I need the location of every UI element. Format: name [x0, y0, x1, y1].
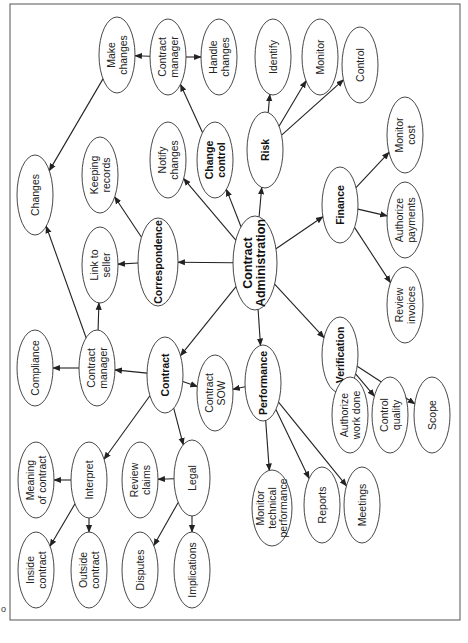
- edge-correspondence-to-link_seller: [118, 263, 138, 264]
- node-compliance: Compliance: [17, 330, 53, 406]
- node-control: Control: [342, 27, 378, 103]
- node-link-seller: Link toseller: [82, 227, 118, 303]
- edge-contract_admin-to-change_control: [226, 189, 241, 226]
- node-label: Legal: [186, 465, 198, 491]
- node-label: Monitor: [314, 39, 326, 75]
- node-label: Contractmanager: [85, 347, 109, 389]
- node-contract-admin: ContractAdministration: [233, 216, 277, 310]
- edge-change_control-to-cm_top: [181, 84, 203, 132]
- node-authorize-work: Authorizework done: [332, 377, 368, 453]
- node-review-invoices: Reviewinvoices: [387, 267, 423, 343]
- node-risk: Risk: [247, 112, 283, 188]
- node-meetings: Meetings: [344, 467, 380, 543]
- edge-legal-to-disputes: [154, 502, 178, 545]
- edge-finance-to-authorize_payments: [358, 209, 387, 216]
- node-reports: Reports: [304, 467, 340, 543]
- node-label: Correspondence: [152, 220, 164, 304]
- edge-contract_admin-to-verification: [275, 284, 324, 338]
- edge-legal-to-review_claims: [158, 479, 174, 480]
- node-label: Reviewclaims: [128, 462, 152, 497]
- node-label: Interpret: [83, 460, 95, 499]
- node-make-changes: Makechanges: [99, 17, 135, 93]
- node-label: Control: [354, 48, 366, 82]
- node-meaning-contract: Meaningof contract: [18, 442, 54, 518]
- node-label: Handlechanges: [207, 37, 231, 77]
- edge-interpret-to-inside_contract: [50, 504, 75, 546]
- node-monitor-tech: Monitortechnicalperformance: [252, 470, 292, 546]
- edge-contract_admin-to-finance: [276, 217, 323, 249]
- node-label: Performance: [257, 351, 269, 415]
- edge-finance-to-review_invoices: [355, 227, 391, 282]
- edge-contract_admin-to-risk: [259, 187, 262, 216]
- edge-finance-to-monitor_cost: [356, 152, 389, 187]
- node-finance: Finance: [322, 167, 358, 243]
- node-notify-changes: Notifychanges: [150, 122, 186, 198]
- node-label: Controlquality: [378, 398, 402, 432]
- node-label: Contract: [159, 353, 171, 397]
- edge-contract_admin-to-contract: [181, 287, 237, 356]
- node-label: Meaningof contract: [24, 455, 48, 504]
- node-label: Changes: [29, 174, 41, 216]
- edge-contract-to-legal: [174, 408, 184, 445]
- edge-risk-to-identify: [268, 94, 270, 112]
- node-inside-contract: Insidecontract: [18, 532, 54, 608]
- node-label: Link toseller: [88, 249, 112, 280]
- node-implications: Implications: [174, 532, 210, 608]
- node-contract: Contract: [147, 337, 183, 413]
- node-legal: Legal: [174, 440, 210, 516]
- node-monitor-cost: Monitorcost: [387, 97, 423, 173]
- node-authorize-payments: Authorizepayments: [387, 182, 423, 258]
- node-label: Keepingrecords: [88, 156, 112, 195]
- node-outside-contract: Outsidecontract: [71, 532, 107, 608]
- edge-performance-to-monitor_tech: [266, 421, 270, 471]
- node-change-control: Changecontrol: [197, 122, 233, 198]
- node-review-claims: Reviewclaims: [122, 442, 158, 518]
- node-performance: Performance: [245, 345, 281, 421]
- node-label: Reviewinvoices: [393, 286, 417, 324]
- node-interpret: Interpret: [71, 442, 107, 518]
- edge-cm_left-to-link_seller: [98, 303, 99, 330]
- edge-cm_top-to-make_changes: [135, 56, 150, 57]
- node-label: Outsidecontract: [77, 551, 101, 588]
- node-keeping-records: Keepingrecords: [82, 137, 118, 213]
- node-label: Reports: [316, 487, 328, 524]
- edge-contract_admin-to-performance: [258, 310, 260, 346]
- node-contract-sow: ContractSOW: [197, 355, 233, 431]
- node-monitor: Monitor: [302, 19, 338, 95]
- node-label: Meetings: [356, 484, 368, 527]
- nodes-layer: ContractAdministrationCorrespondenceLink…: [17, 17, 450, 608]
- node-handle-changes: Handlechanges: [201, 19, 237, 95]
- node-changes: Changes: [17, 155, 53, 235]
- corner-mark: o: [1, 604, 6, 614]
- node-correspondence: Correspondence: [138, 218, 178, 306]
- node-label: Authorizework done: [338, 391, 362, 441]
- edge-contract-to-contract_sow: [183, 381, 198, 386]
- node-disputes: Disputes: [122, 532, 158, 608]
- edge-correspondence-to-keeping_records: [115, 197, 142, 237]
- edge-contract-to-cm_left: [115, 370, 147, 373]
- node-label: Insidecontract: [24, 551, 48, 588]
- edge-performance-to-contract_sow: [233, 387, 245, 390]
- node-label: Identify: [267, 39, 279, 74]
- node-label: Verification: [334, 327, 346, 384]
- node-label: Implications: [186, 542, 198, 597]
- node-label: Contractmanager: [156, 36, 180, 78]
- node-label: Risk: [259, 139, 271, 161]
- node-control-quality: Controlquality: [372, 377, 408, 453]
- node-label: Disputes: [134, 550, 146, 591]
- edge-contract_admin-to-correspondence: [178, 262, 233, 263]
- node-scope: Scope: [414, 377, 450, 453]
- edge-cm_left-to-changes: [46, 226, 86, 337]
- node-label: Finance: [334, 185, 346, 225]
- node-label: Compliance: [29, 340, 41, 396]
- node-label: Authorizepayments: [393, 197, 417, 243]
- node-identify: Identify: [255, 19, 291, 95]
- node-label: Scope: [426, 400, 438, 430]
- contract-administration-diagram: ContractAdministrationCorrespondenceLink…: [0, 0, 468, 643]
- node-label: Changecontrol: [203, 141, 227, 180]
- node-cm-top: Contractmanager: [150, 19, 186, 95]
- node-cm-left: Contractmanager: [79, 330, 115, 406]
